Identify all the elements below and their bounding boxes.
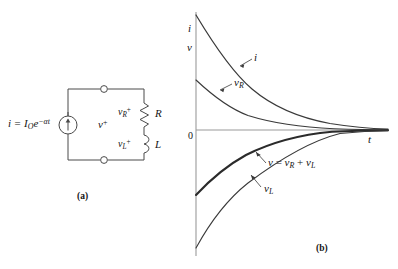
leader-arrow-vsum xyxy=(256,152,261,156)
resistor-label: R xyxy=(155,108,162,119)
curve-label-i: i xyxy=(254,52,257,63)
leader-line-vr xyxy=(220,84,232,90)
inductor-symbol xyxy=(144,135,149,153)
inductor-label-text: L xyxy=(155,138,161,150)
inductor-voltage-label: vL+ xyxy=(118,139,131,151)
y-axis-label-i: i xyxy=(188,23,191,34)
curve-label-vr-sub: R xyxy=(239,81,244,90)
resistor-symbol xyxy=(140,103,149,127)
current-source-equation: i = IOe−αt xyxy=(8,118,50,131)
inductor-voltage-plus: + xyxy=(126,138,130,146)
graph-plot xyxy=(196,12,388,256)
curve-vl xyxy=(196,131,388,248)
source-eq-exponent: −αt xyxy=(38,117,50,126)
v-sum-term-b-sub: L xyxy=(311,161,315,170)
curve-label-vr: vR xyxy=(234,77,244,90)
y-axis-label-v: v xyxy=(187,42,192,53)
caption-b: (b) xyxy=(316,243,328,253)
curve-i xyxy=(196,15,388,129)
leader-line-i xyxy=(240,59,252,66)
resistor-voltage-plus: + xyxy=(127,106,131,114)
v-sum-plus: + xyxy=(294,156,306,168)
resistor-label-text: R xyxy=(155,107,162,119)
source-eq-i: i = I xyxy=(8,117,28,129)
curve-label-vl: vL xyxy=(264,183,273,196)
curve-label-v-sum: v = vR + vL xyxy=(268,157,315,170)
node-voltage-label: v+ xyxy=(98,119,107,130)
origin-label: 0 xyxy=(188,131,193,141)
terminal-node-top xyxy=(101,86,108,93)
curve-label-vl-sub: L xyxy=(269,187,273,196)
v-sum-equals: = xyxy=(273,156,285,168)
resistor-voltage-label: vR+ xyxy=(118,107,131,119)
caption-a: (a) xyxy=(77,191,88,201)
node-voltage-plus: + xyxy=(103,118,107,127)
inductor-label: L xyxy=(155,139,161,150)
terminal-node-bottom xyxy=(101,157,108,164)
x-axis-label-t: t xyxy=(368,134,371,145)
figure-canvas xyxy=(0,0,398,269)
